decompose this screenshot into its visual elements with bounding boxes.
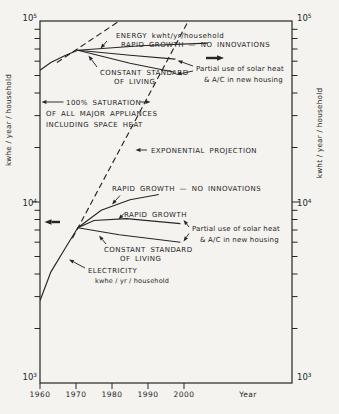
annotation-label: INCLUDING SPACE HEAT bbox=[46, 121, 143, 129]
annotation-label: RAPID GROWTH bbox=[124, 211, 187, 219]
arrow-head-read-right-scale bbox=[217, 55, 224, 61]
annotation-label: CONSTANT STANDARD bbox=[100, 69, 189, 77]
annotation-label: Partial use of solar heat bbox=[192, 225, 280, 233]
y-tick-label-left: 103 bbox=[22, 372, 37, 383]
series-electricity-rapid-growth bbox=[78, 219, 181, 228]
arrow-head-exponential-label bbox=[136, 148, 141, 152]
x-tick-label: 1980 bbox=[102, 390, 123, 399]
series-electricity-constant-standard-of-living bbox=[78, 228, 181, 242]
arrow-head-top-partial-upper bbox=[178, 60, 183, 64]
x-tick-label: 1960 bbox=[30, 390, 51, 399]
y-axis-title-right: kwht / year / household bbox=[315, 88, 324, 179]
annotation-label: RAPID GROWTH — NO INNOVATIONS bbox=[121, 41, 270, 49]
arrow-top-rapid-label bbox=[104, 41, 107, 45]
annotation-label: EXPONENTIAL PROJECTION bbox=[151, 147, 257, 155]
annotation-label: & A/C in new housing bbox=[204, 76, 283, 84]
y-axis-title-left: kwhe / year / household bbox=[4, 74, 13, 166]
x-tick-label: 1970 bbox=[66, 390, 87, 399]
annotation-label: RAPID GROWTH — NO INNOVATIONS bbox=[112, 185, 261, 193]
series-electricity-history bbox=[40, 228, 78, 301]
arrow-head-saturation-right bbox=[146, 100, 151, 104]
arrow-head-read-left-scale bbox=[45, 219, 52, 225]
annotation-labels: ENERGY kwht/yr/householdRAPID GROWTH — N… bbox=[46, 32, 284, 285]
arrow-head-electricity-label bbox=[69, 260, 74, 264]
y-tick-label-right: 103 bbox=[297, 372, 312, 383]
arrow-bottom-partial-lower bbox=[186, 234, 189, 238]
series-energy-history bbox=[40, 50, 78, 70]
annotation-label: Partial use of solar heat bbox=[196, 65, 284, 73]
x-axis-title: Year bbox=[238, 390, 257, 399]
y-tick-label-left: 104 bbox=[22, 198, 37, 209]
figure: 19601970198019902000Year1031031041041051… bbox=[0, 0, 339, 414]
arrow-electricity-label bbox=[73, 262, 85, 268]
y-tick-label-right: 104 bbox=[297, 198, 312, 209]
annotation-label: 100% SATURATION bbox=[66, 99, 141, 107]
arrow-head-saturation-left bbox=[42, 100, 47, 104]
arrow-top-constant-label bbox=[91, 60, 97, 67]
annotation-label: CONSTANT STANDARD bbox=[104, 246, 193, 254]
arrow-head-bottom-partial-lower bbox=[184, 236, 188, 241]
energy-projection-chart: 19601970198019902000Year1031031041041051… bbox=[0, 0, 339, 414]
annotation-label: kwhe / yr / household bbox=[95, 277, 169, 285]
annotation-label: & A/C in new housing bbox=[200, 236, 279, 244]
y-tick-label-left: 105 bbox=[22, 13, 37, 24]
annotation-label: ELECTRICITY bbox=[88, 267, 138, 275]
arrow-bottom-noinnov-label bbox=[115, 196, 120, 201]
annotation-label: OF LIVING bbox=[120, 255, 161, 263]
annotation-label: OF ALL MAJOR APPLIANCES bbox=[46, 110, 157, 118]
arrow-bottom-partial-upper bbox=[187, 224, 189, 227]
arrow-bottom-constant-label bbox=[102, 239, 106, 244]
arrow-top-partial-upper bbox=[182, 62, 193, 66]
series-energy-rapid-growth-with-solar bbox=[78, 50, 176, 59]
y-tick-label-right: 105 bbox=[297, 13, 312, 24]
x-tick-label: 2000 bbox=[174, 390, 195, 399]
annotation-label: ENERGY kwht/yr/household bbox=[116, 32, 224, 40]
x-tick-label: 1990 bbox=[138, 390, 159, 399]
annotation-label: OF LIVING bbox=[114, 78, 155, 86]
